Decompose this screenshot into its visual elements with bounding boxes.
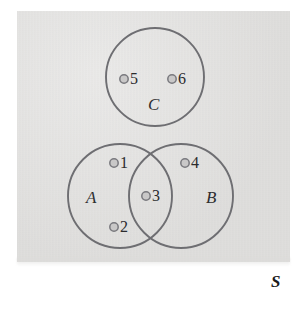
element-label-1: 1 (120, 154, 128, 172)
venn-diagram-figure: 1 2 3 4 5 6 A B C S (0, 0, 307, 317)
element-marker-1 (110, 159, 118, 167)
set-label-c: C (148, 95, 159, 115)
set-label-a: A (86, 188, 96, 208)
element-label-5: 5 (130, 70, 138, 88)
element-label-4: 4 (191, 154, 199, 172)
venn-circles-layer (0, 0, 307, 317)
element-marker-4 (181, 159, 189, 167)
element-marker-6 (168, 75, 176, 83)
element-label-2: 2 (120, 218, 128, 236)
element-label-6: 6 (178, 70, 186, 88)
element-marker-3 (142, 192, 150, 200)
element-label-3: 3 (152, 187, 160, 205)
universal-set-label: S (271, 272, 280, 292)
set-label-b: B (206, 188, 216, 208)
element-marker-5 (120, 75, 128, 83)
element-marker-2 (110, 223, 118, 231)
